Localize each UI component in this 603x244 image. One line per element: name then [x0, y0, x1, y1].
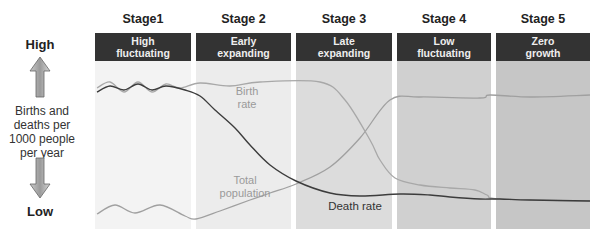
chart-lines [0, 0, 603, 244]
total-population-label-line: population [215, 187, 275, 200]
death-rate-line [97, 84, 590, 201]
total-population-label-line: Total [215, 174, 275, 187]
birth-rate-label: Birth rate [222, 85, 272, 111]
birth-rate-line [97, 80, 590, 201]
birth-rate-label-line: rate [222, 98, 272, 111]
total-population-label: Total population [215, 174, 275, 200]
birth-rate-label-line: Birth [222, 85, 272, 98]
death-rate-label: Death rate [320, 200, 390, 213]
